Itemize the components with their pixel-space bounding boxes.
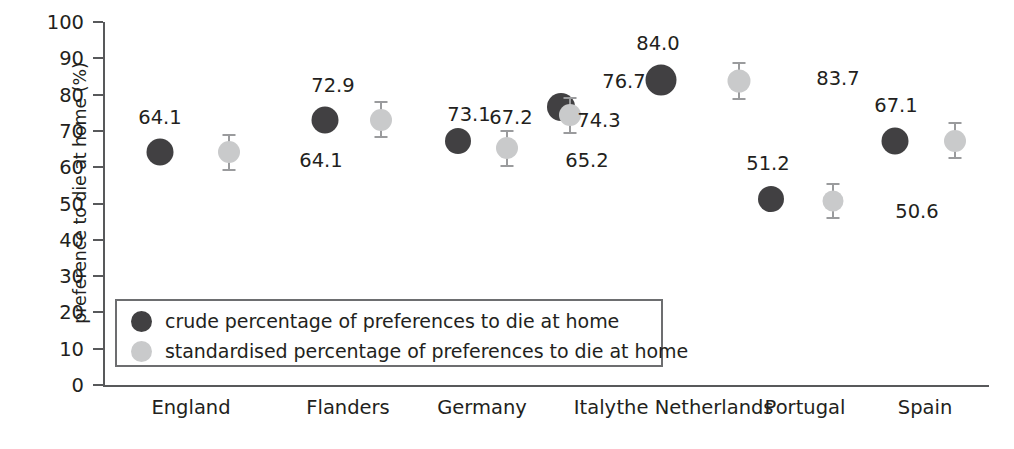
x-axis-line	[103, 385, 989, 387]
data-point-crude-england	[147, 139, 174, 166]
y-tick-label-10: 10	[24, 337, 84, 360]
error-bar-cap-portugal	[827, 217, 840, 219]
error-bar-cap-the-netherlands	[733, 62, 746, 64]
y-tick-70	[93, 130, 103, 132]
legend-marker-standardised-icon	[131, 341, 152, 362]
y-tick-label-40: 40	[24, 228, 84, 251]
data-point-standardised-england	[218, 141, 240, 163]
y-tick-0	[93, 384, 103, 386]
x-axis-label-england: England	[151, 396, 230, 419]
y-tick-40	[93, 239, 103, 241]
y-tick-50	[93, 203, 103, 205]
data-label-crude-portugal: 51.2	[746, 152, 789, 175]
y-tick-30	[93, 275, 103, 277]
error-bar-cap-portugal	[827, 183, 840, 185]
data-label-crude-england: 64.1	[138, 106, 181, 129]
error-bar-cap-flanders	[375, 101, 388, 103]
legend-label-standardised: standardised percentage of preferences t…	[165, 340, 688, 362]
data-point-standardised-portugal	[823, 191, 844, 212]
data-label-standardised-flanders: 73.1	[447, 102, 490, 125]
y-tick-10	[93, 348, 103, 350]
data-label-crude-flanders: 72.9	[311, 74, 354, 97]
error-bar-cap-spain	[949, 122, 962, 124]
chart-figure: preference to die at home (%) 0102030405…	[0, 0, 1014, 449]
error-bar-cap-england	[223, 169, 236, 171]
data-point-standardised-flanders	[370, 109, 392, 131]
data-point-standardised-spain	[944, 130, 966, 152]
x-axis-label-italy: Italy	[574, 396, 616, 419]
y-tick-90	[93, 57, 103, 59]
legend-label-crude: crude percentage of preferences to die a…	[165, 310, 619, 332]
x-axis-label-flanders: Flanders	[306, 396, 390, 419]
data-label-standardised-italy: 74.3	[577, 109, 620, 132]
y-tick-label-60: 60	[24, 156, 84, 179]
x-axis-label-the-netherlands: the Netherlands	[616, 396, 773, 419]
data-point-crude-the-netherlands	[646, 65, 677, 96]
y-tick-label-30: 30	[24, 265, 84, 288]
error-bar-cap-italy	[564, 97, 577, 99]
data-point-standardised-the-netherlands	[728, 70, 751, 93]
data-label-standardised-germany: 65.2	[565, 149, 608, 172]
data-label-crude-spain: 67.1	[874, 94, 917, 117]
error-bar-cap-italy	[564, 132, 577, 134]
y-axis-tick-labels: 0102030405060708090100	[22, 0, 84, 449]
legend-marker-crude-icon	[131, 311, 152, 332]
y-tick-label-50: 50	[24, 192, 84, 215]
data-point-standardised-germany	[496, 137, 518, 159]
data-label-standardised-portugal: 50.6	[895, 200, 938, 223]
error-bar-cap-germany	[501, 130, 514, 132]
y-tick-20	[93, 311, 103, 313]
data-point-crude-flanders	[312, 107, 339, 134]
y-tick-label-70: 70	[24, 119, 84, 142]
data-label-crude-germany: 67.2	[489, 106, 532, 129]
error-bar-cap-england	[223, 134, 236, 136]
error-bar-cap-germany	[501, 165, 514, 167]
error-bar-cap-flanders	[375, 136, 388, 138]
data-point-crude-spain	[882, 128, 909, 155]
data-point-crude-portugal	[758, 186, 784, 212]
y-tick-label-80: 80	[24, 83, 84, 106]
data-label-crude-the-netherlands: 84.0	[636, 32, 679, 55]
y-axis-line	[103, 22, 105, 386]
legend-item-standardised[interactable]: standardised percentage of preferences t…	[131, 337, 688, 365]
y-tick-label-100: 100	[24, 11, 84, 34]
data-label-standardised-the-netherlands: 83.7	[816, 67, 859, 90]
y-tick-label-0: 0	[24, 374, 84, 397]
data-label-crude-italy: 76.7	[602, 69, 645, 92]
error-bar-cap-the-netherlands	[733, 98, 746, 100]
data-point-crude-germany	[445, 128, 471, 154]
chart-legend: crude percentage of preferences to die a…	[115, 299, 663, 367]
x-axis-label-spain: Spain	[898, 396, 952, 419]
y-tick-80	[93, 94, 103, 96]
data-label-standardised-england: 64.1	[299, 149, 342, 172]
legend-item-crude[interactable]: crude percentage of preferences to die a…	[131, 307, 619, 335]
y-tick-label-90: 90	[24, 47, 84, 70]
x-axis-label-portugal: Portugal	[765, 396, 846, 419]
y-tick-label-20: 20	[24, 301, 84, 324]
y-tick-100	[93, 21, 103, 23]
x-axis-label-germany: Germany	[437, 396, 527, 419]
y-tick-60	[93, 166, 103, 168]
error-bar-cap-spain	[949, 157, 962, 159]
